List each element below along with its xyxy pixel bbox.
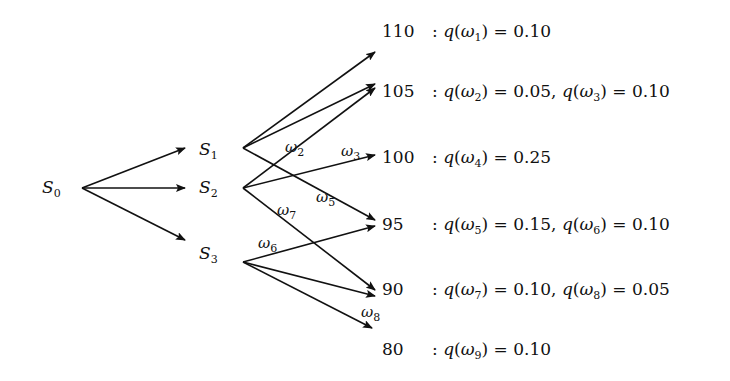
probability-row: : q(ω4) = 0.25 [432,149,551,169]
node-s3-letter: S [199,243,211,263]
probability-term: q(ω6) = 0.10 [562,214,670,234]
edge-s0-s1 [82,148,185,188]
outcome-value: 90 [382,281,404,298]
edge-label-omega5: ω5 [316,190,335,208]
node-s0: S0 [42,179,61,199]
outcome-value: 80 [382,341,404,358]
colon: : [432,279,438,299]
outcome-value: 110 [382,23,414,40]
probability-row: : q(ω2) = 0.05, q(ω3) = 0.10 [432,83,670,103]
omega-symbol: ω [258,234,270,252]
tree-edges [0,0,730,381]
outcome-value: 105 [382,83,414,100]
omega-sub: 3 [353,150,360,163]
edge-label-omega6: ω6 [258,236,277,254]
edge-s1-110 [243,52,375,148]
probability-term: q(ω3) = 0.10 [562,81,670,101]
omega-symbol: ω [361,303,373,321]
probability-term: q(ω8) = 0.05 [562,279,670,299]
omega-sub: 6 [270,242,277,255]
edge-s3-90 [243,262,375,296]
probability-row: : q(ω5) = 0.15, q(ω6) = 0.10 [432,216,670,236]
probability-term: q(ω4) = 0.25 [443,147,551,167]
colon: : [432,147,438,167]
node-s1: S1 [199,141,218,161]
probability-term: q(ω1) = 0.10 [443,21,551,41]
omega-symbol: ω [341,142,353,160]
edge-s0-s3 [82,188,185,240]
omega-sub: 7 [289,209,296,222]
node-s0-letter: S [42,177,54,197]
probability-term: q(ω2) = 0.05 [443,81,551,101]
probability-row: : q(ω7) = 0.10, q(ω8) = 0.05 [432,281,670,301]
node-s2-sub: 2 [211,187,218,200]
colon: : [432,339,438,359]
outcome-value: 95 [382,216,404,233]
probability-row: : q(ω9) = 0.10 [432,341,551,361]
node-s2: S2 [199,179,218,199]
omega-symbol: ω [316,188,328,206]
node-s3: S3 [199,245,218,265]
edge-label-omega2: ω2 [285,140,304,158]
colon: : [432,214,438,234]
comma: , [551,279,556,299]
omega-sub: 8 [373,311,380,324]
edge-label-omega3: ω3 [341,144,360,162]
probability-row: : q(ω1) = 0.10 [432,23,551,43]
edge-label-omega7: ω7 [277,203,296,221]
node-s3-sub: 3 [211,253,218,266]
omega-sub: 2 [297,146,304,159]
outcome-value: 100 [382,149,414,166]
colon: : [432,81,438,101]
omega-symbol: ω [285,138,297,156]
node-s1-letter: S [199,139,211,159]
probability-term: q(ω9) = 0.10 [443,339,551,359]
probability-term: q(ω7) = 0.10 [443,279,551,299]
omega-symbol: ω [277,201,289,219]
node-s2-letter: S [199,177,211,197]
omega-sub: 5 [328,196,335,209]
colon: : [432,21,438,41]
probability-term: q(ω5) = 0.15 [443,214,551,234]
comma: , [551,81,556,101]
node-s1-sub: 1 [211,149,218,162]
edge-label-omega8: ω8 [361,305,380,323]
node-s0-sub: 0 [54,187,61,200]
comma: , [551,214,556,234]
